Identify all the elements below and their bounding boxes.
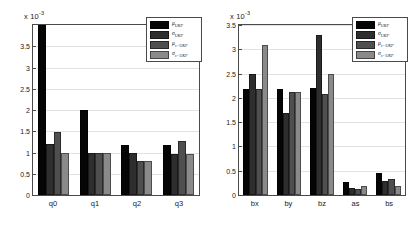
bar (144, 161, 152, 195)
y-tick-label: 3 (232, 46, 236, 53)
legend-item[interactable]: μUKF (150, 20, 198, 29)
bar (328, 74, 334, 195)
bar-set (310, 25, 335, 195)
legend-swatch-icon (356, 21, 375, 29)
bar-set (243, 25, 268, 195)
legend-label: μUKF (172, 21, 183, 28)
x-tick-label: by (272, 199, 306, 208)
legend-swatch-icon (356, 51, 375, 59)
y-axis-multiplier-text: x 10 (230, 12, 245, 21)
bar (171, 154, 179, 195)
y-axis-multiplier-exponent: -3 (39, 10, 44, 16)
legend-swatch-icon (150, 51, 169, 59)
bar-set (38, 25, 69, 195)
x-tick-label: bz (305, 199, 339, 208)
y-axis-multiplier-left: x 10-3 (24, 10, 44, 21)
bar-set (277, 25, 302, 195)
legend-item[interactable]: σUKF (356, 30, 404, 39)
bar (88, 153, 96, 196)
bar (186, 154, 194, 195)
legend-label: σUKF (172, 31, 183, 38)
bar (163, 145, 171, 195)
bar (38, 25, 46, 195)
bar-group (33, 25, 75, 195)
legend-swatch-icon (150, 31, 169, 39)
bar-group (272, 25, 305, 195)
y-tick-mark (33, 195, 36, 196)
chart-panel-left: x 10-3 00.511.522.533.5 q0q1q2q3 μUKFσUK… (0, 0, 206, 228)
y-tick-label: 0.5 (226, 167, 236, 174)
y-tick-label: 2.5 (20, 85, 30, 92)
chart-panel-right: x 10-3 00.511.522.533.5 bxbybzasbs μUKFσ… (206, 0, 412, 228)
legend-swatch-icon (356, 31, 375, 39)
x-tick-label: bs (372, 199, 406, 208)
bar (395, 186, 401, 195)
legend-label: μUKF (378, 21, 389, 28)
y-tick-label: 3.5 (20, 43, 30, 50)
x-axis-labels-right: bxbybzasbs (238, 199, 406, 208)
legend-swatch-icon (150, 21, 169, 29)
bar-group (75, 25, 117, 195)
y-tick-label: 3.5 (226, 22, 236, 29)
y-tick-mark (239, 195, 242, 196)
y-tick-label: 1.5 (20, 128, 30, 135)
bar (178, 141, 186, 195)
y-tick-label: 0 (26, 192, 30, 199)
bar (121, 145, 129, 195)
bar-set (80, 25, 111, 195)
bar (137, 161, 145, 195)
legend-label: σs−UKF (172, 51, 188, 58)
legend-left: μUKFσUKFμs−UKFσs−UKF (146, 17, 202, 62)
legend-item[interactable]: μs−UKF (356, 40, 404, 49)
y-tick-label: 1 (232, 143, 236, 150)
legend-item[interactable]: μUKF (356, 20, 404, 29)
bar-group (305, 25, 338, 195)
figure-container: x 10-3 00.511.522.533.5 q0q1q2q3 μUKFσUK… (0, 0, 412, 228)
bar (103, 153, 111, 195)
x-tick-label: as (339, 199, 373, 208)
legend-label: μs−UKF (172, 41, 188, 48)
legend-label: μs−UKF (378, 41, 394, 48)
legend-label: σs−UKF (378, 51, 394, 58)
bar (295, 92, 301, 195)
y-axis-multiplier-exponent: -3 (245, 10, 250, 16)
y-tick-label: 2 (232, 94, 236, 101)
legend-right: μUKFσUKFμs−UKFσs−UKF (352, 17, 408, 62)
legend-item[interactable]: σs−UKF (150, 50, 198, 59)
y-tick-label: 1 (26, 149, 30, 156)
bar (46, 144, 54, 195)
y-tick-label: 2.5 (226, 70, 236, 77)
y-tick-label: 0 (232, 192, 236, 199)
y-tick-label: 0.5 (20, 170, 30, 177)
y-tick-label: 1.5 (226, 119, 236, 126)
legend-item[interactable]: σs−UKF (356, 50, 404, 59)
y-tick-label: 2 (26, 107, 30, 114)
bar (262, 45, 268, 195)
x-axis-labels-left: q0q1q2q3 (32, 199, 200, 208)
x-tick-label: q1 (74, 199, 116, 208)
x-tick-label: q3 (158, 199, 200, 208)
x-tick-label: q0 (32, 199, 74, 208)
legend-label: σUKF (378, 31, 389, 38)
y-axis-multiplier-right: x 10-3 (230, 10, 250, 21)
legend-item[interactable]: μs−UKF (150, 40, 198, 49)
legend-swatch-icon (356, 41, 375, 49)
x-tick-label: q2 (116, 199, 158, 208)
bar (80, 110, 88, 195)
y-tick-label: 3 (26, 64, 30, 71)
legend-swatch-icon (150, 41, 169, 49)
bar (61, 153, 69, 195)
bar (129, 153, 137, 195)
bar (361, 186, 367, 195)
bar-group (239, 25, 272, 195)
bar (95, 153, 103, 196)
x-tick-label: bx (238, 199, 272, 208)
bar (54, 132, 62, 195)
y-axis-multiplier-text: x 10 (24, 12, 39, 21)
legend-item[interactable]: σUKF (150, 30, 198, 39)
